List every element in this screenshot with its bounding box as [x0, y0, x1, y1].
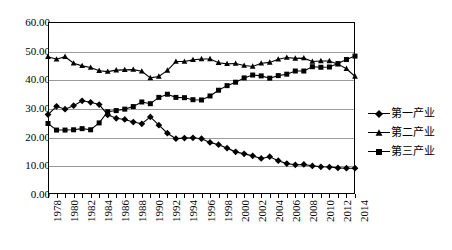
data-point-marker [70, 102, 77, 109]
legend-marker [373, 108, 385, 120]
data-point-marker [71, 60, 77, 65]
triangle-marker-icon [368, 127, 390, 139]
data-point-marker [97, 120, 102, 125]
legend-item-label: 第二产业 [391, 127, 435, 138]
x-axis-tick-mark [346, 194, 347, 198]
x-axis-tick-mark [312, 194, 313, 198]
x-axis-tick-label: 1986 [120, 200, 131, 222]
x-axis-tick-label: 1994 [188, 200, 199, 222]
data-point-marker [215, 141, 222, 148]
data-point-marker [105, 109, 110, 114]
x-axis-tick-mark [65, 194, 66, 198]
data-point-marker [173, 95, 178, 100]
x-axis-tick-mark [159, 194, 160, 198]
data-point-marker [139, 99, 144, 104]
data-point-marker [284, 72, 289, 77]
y-axis-tick-label: 0.00 [0, 189, 50, 200]
data-point-marker [182, 95, 187, 100]
data-point-marker [335, 165, 342, 172]
series-line [48, 101, 355, 168]
data-point-marker [241, 150, 248, 157]
data-point-marker [293, 69, 298, 74]
x-axis-tick-mark [219, 194, 220, 198]
x-axis-tick-mark [74, 194, 75, 198]
data-point-marker [249, 152, 256, 159]
data-point-marker [318, 163, 325, 170]
x-axis-tick-mark [125, 194, 126, 198]
data-point-marker [131, 104, 136, 109]
data-point-marker [327, 65, 332, 70]
x-axis-tick-mark [57, 194, 58, 198]
data-point-marker [208, 93, 213, 98]
data-point-marker [284, 54, 290, 59]
chart-screenshot: 0.0010.0020.0030.0040.0050.0060.00 19781… [0, 0, 452, 250]
y-axis-tick-label: 60.00 [0, 17, 50, 28]
legend: 第一产业第二产业第三产业 [368, 104, 452, 161]
x-axis-tick-mark [304, 194, 305, 198]
legend-item[interactable]: 第三产业 [368, 142, 452, 161]
data-point-marker [88, 127, 93, 132]
data-point-marker [130, 119, 137, 126]
data-point-marker [199, 97, 204, 102]
x-axis-tick-mark [287, 194, 288, 198]
x-axis-tick-mark [193, 194, 194, 198]
legend-item[interactable]: 第一产业 [368, 104, 452, 123]
series-1 [45, 97, 359, 171]
x-axis-tick-label: 1998 [223, 200, 234, 222]
data-point-marker [276, 73, 281, 78]
data-point-marker [87, 99, 94, 106]
data-point-marker [198, 135, 205, 142]
data-point-marker [232, 148, 239, 155]
data-point-marker [343, 165, 350, 172]
data-point-marker [80, 126, 85, 131]
legend-item-label: 第三产业 [391, 146, 435, 157]
data-point-marker [318, 65, 323, 70]
x-axis-tick-mark [321, 194, 322, 198]
data-point-marker [266, 153, 273, 160]
data-point-marker [250, 73, 255, 78]
diamond-marker-icon [368, 108, 390, 120]
x-axis-tick-label: 1984 [103, 200, 114, 222]
x-axis-tick-mark [210, 194, 211, 198]
data-point-marker [301, 69, 306, 74]
x-axis-tick-mark [261, 194, 262, 198]
data-point-marker [326, 164, 333, 171]
legend-item[interactable]: 第二产业 [368, 123, 452, 142]
data-point-marker [258, 155, 265, 162]
series-3 [46, 54, 358, 133]
x-axis-tick-label: 2006 [291, 200, 302, 222]
data-point-marker [207, 139, 214, 146]
x-axis-tick-mark [244, 194, 245, 198]
x-axis-tick-mark [142, 194, 143, 198]
x-axis-tick-label: 1980 [69, 200, 80, 222]
data-point-marker [344, 57, 349, 62]
data-point-marker [310, 64, 315, 69]
x-axis-tick-mark [99, 194, 100, 198]
data-point-marker [114, 108, 119, 113]
x-axis-tick-mark [202, 194, 203, 198]
data-point-marker [62, 106, 69, 113]
x-axis-tick-mark [236, 194, 237, 198]
data-point-marker [224, 145, 231, 152]
x-axis-tick-mark [167, 194, 168, 198]
x-axis-tick-mark [108, 194, 109, 198]
x-axis-tick-mark [278, 194, 279, 198]
data-point-marker [63, 128, 68, 133]
x-axis-tick-label: 1982 [86, 200, 97, 222]
legend-marker [373, 146, 385, 158]
x-axis-tick-label: 1990 [154, 200, 165, 222]
data-point-marker [353, 54, 358, 59]
data-point-marker [190, 134, 197, 141]
data-point-marker [165, 92, 170, 97]
data-point-marker [267, 76, 272, 81]
data-point-marker [173, 135, 180, 142]
square-marker-icon [368, 146, 390, 158]
x-axis-tick-mark [184, 194, 185, 198]
x-axis-tick-mark [253, 194, 254, 198]
data-point-marker [121, 116, 128, 123]
y-axis-tick-label: 10.00 [0, 160, 50, 171]
data-point-marker [46, 121, 51, 126]
data-point-marker [275, 157, 282, 164]
x-axis-tick-mark [270, 194, 271, 198]
x-axis-tick-mark [82, 194, 83, 198]
